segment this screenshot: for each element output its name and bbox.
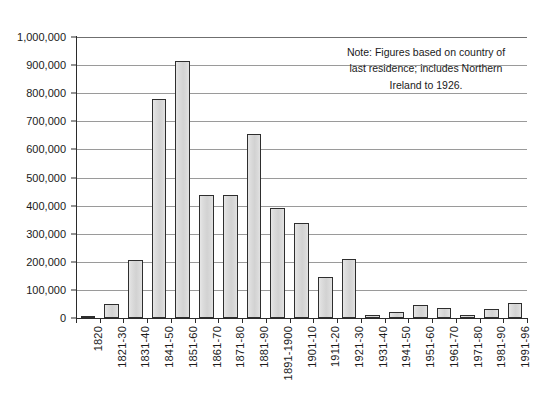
bar-chart-figure: 0100,000200,000300,000400,000500,000600,… [0, 0, 543, 403]
x-tick-mark [242, 318, 243, 323]
y-tick-label: 700,000 [26, 115, 66, 127]
x-tick-mark [147, 318, 148, 323]
bar-1821-30 [104, 304, 119, 318]
bar-1871-80 [223, 195, 238, 318]
x-tick-mark [76, 318, 77, 323]
bar-1961-70 [437, 308, 452, 318]
y-tick-label: 800,000 [26, 87, 66, 99]
bar-1881-90 [247, 134, 262, 318]
x-tick-mark [456, 318, 457, 323]
y-axis-tick-labels: 0100,000200,000300,000400,000500,000600,… [0, 37, 76, 318]
x-tick-label: 1911-20 [329, 326, 341, 367]
y-axis-line [76, 36, 77, 319]
x-tick-mark [527, 318, 528, 323]
x-axis-tick-labels: 18201821-301831-401841-501851-601861-701… [76, 326, 527, 403]
x-tick-mark [313, 318, 314, 323]
x-tick-label: 1921-30 [353, 326, 365, 368]
x-tick-label: 1931-40 [377, 326, 389, 368]
bar-1901-10 [294, 223, 309, 318]
x-tick-label: 1941-50 [400, 326, 412, 368]
x-tick-label: 1851-60 [187, 326, 199, 368]
x-tick-label: 1891-1900 [282, 326, 294, 380]
x-tick-label: 1951-60 [424, 326, 436, 368]
bar-1831-40 [128, 260, 143, 318]
chart-note-line-1: Note: Figures based on country of [330, 44, 522, 60]
x-tick-mark [266, 318, 267, 323]
y-tick-label: 500,000 [26, 172, 66, 184]
y-tick-label: 200,000 [26, 256, 66, 268]
y-tick-label: 1,000,000 [17, 31, 66, 43]
y-tick-label: 900,000 [26, 59, 66, 71]
bar-1911-20 [318, 277, 333, 318]
y-tick-label: 400,000 [26, 200, 66, 212]
y-tick-label: 0 [60, 312, 66, 324]
x-tick-label: 1991-96 [519, 326, 531, 368]
x-tick-mark [432, 318, 433, 323]
x-tick-label: 1861-70 [211, 326, 223, 368]
x-tick-label: 1821-30 [116, 326, 128, 368]
x-tick-mark [171, 318, 172, 323]
bar-1841-50 [152, 99, 167, 318]
y-tick-label: 600,000 [26, 143, 66, 155]
x-tick-mark [337, 318, 338, 323]
chart-note-line-2: last residence; includes Northern [330, 60, 522, 76]
x-tick-label: 1961-70 [448, 326, 460, 368]
x-tick-mark [408, 318, 409, 323]
x-tick-mark [218, 318, 219, 323]
x-tick-mark [480, 318, 481, 323]
bar-1921-30 [342, 259, 357, 318]
chart-note: Note: Figures based on country of last r… [330, 44, 522, 93]
x-axis-tick-marks [76, 318, 527, 324]
bar-1891-1900 [270, 208, 285, 318]
x-tick-label: 1981-90 [495, 326, 507, 368]
bar-1951-60 [413, 305, 428, 318]
x-tick-mark [100, 318, 101, 323]
x-tick-label: 1901-10 [306, 326, 318, 368]
bar-1861-70 [199, 195, 214, 318]
bar-1991-96 [508, 303, 523, 318]
y-tick-label: 300,000 [26, 228, 66, 240]
x-tick-mark [361, 318, 362, 323]
x-tick-mark [123, 318, 124, 323]
chart-note-line-3: Ireland to 1926. [330, 77, 522, 93]
x-tick-mark [385, 318, 386, 323]
x-tick-label: 1871-80 [234, 326, 246, 368]
x-tick-label: 1881-90 [258, 326, 270, 368]
x-tick-label: 1971-80 [472, 326, 484, 368]
x-tick-mark [503, 318, 504, 323]
y-tick-label: 100,000 [26, 284, 66, 296]
x-tick-mark [290, 318, 291, 323]
bar-1851-60 [175, 61, 190, 318]
x-tick-label: 1841-50 [163, 326, 175, 368]
bar-1981-90 [484, 309, 499, 318]
x-tick-mark [195, 318, 196, 323]
x-tick-label: 1820 [92, 326, 104, 351]
x-tick-label: 1831-40 [139, 326, 151, 368]
